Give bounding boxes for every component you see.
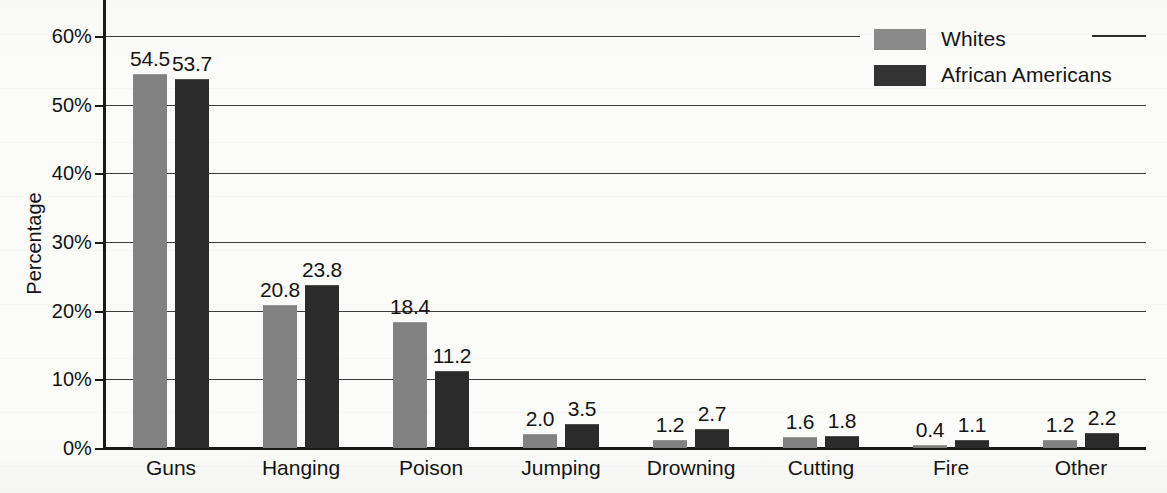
bar-value-label: 3.5 [568, 397, 597, 421]
y-axis-tick-label: 0% [6, 437, 92, 460]
gridline [103, 379, 1146, 380]
x-axis-category-label: Jumping [521, 456, 600, 480]
bar [1043, 440, 1077, 448]
gridline [103, 242, 1146, 243]
bar-value-label: 1.2 [656, 413, 685, 437]
bar [695, 429, 729, 448]
bar [1085, 433, 1119, 448]
bar-value-label: 2.7 [698, 402, 727, 426]
y-axis-tick-label: 40% [6, 162, 92, 185]
y-axis-line [103, 0, 106, 450]
x-axis-category-label: Other [1055, 456, 1108, 480]
bar-value-label: 0.4 [916, 418, 945, 442]
x-axis-category-label: Fire [933, 456, 969, 480]
y-axis-tick-label: 20% [6, 299, 92, 322]
bar-value-label: 11.2 [433, 344, 472, 368]
legend-swatch [874, 29, 926, 50]
bar-value-label: 2.0 [526, 407, 555, 431]
x-axis-category-label: Hanging [262, 456, 340, 480]
legend-item: African Americans [874, 60, 1112, 90]
bar [653, 440, 687, 448]
bar [435, 371, 469, 448]
gridline [103, 173, 1146, 174]
x-axis-line [103, 447, 1146, 450]
bar-value-label: 54.5 [130, 47, 170, 71]
gridline [103, 105, 1146, 106]
bar [263, 305, 297, 448]
x-axis-category-label: Guns [146, 456, 196, 480]
bar [783, 437, 817, 448]
bar-value-label: 1.8 [828, 409, 857, 433]
bar [955, 440, 989, 448]
chart-legend: WhitesAfrican Americans [874, 24, 1112, 96]
bar [825, 436, 859, 448]
bar-value-label: 1.1 [958, 413, 987, 437]
bar-value-label: 18.4 [390, 295, 430, 319]
bar-value-label: 1.2 [1046, 413, 1075, 437]
bar [393, 322, 427, 448]
bar-value-label: 23.8 [302, 258, 342, 282]
bar-value-label: 53.7 [172, 52, 212, 76]
bar [175, 79, 209, 448]
y-axis-tick-label: 10% [6, 368, 92, 391]
bar [523, 434, 557, 448]
legend-label: African Americans [941, 63, 1112, 87]
bar [565, 424, 599, 448]
y-axis-tick-label: 30% [6, 231, 92, 254]
gridline [103, 311, 1146, 312]
plot-area: 0%10%20%30%40%50%60% Percentage 54.553.7… [0, 0, 1167, 493]
y-axis-tick-label: 60% [6, 25, 92, 48]
x-axis-category-label: Cutting [788, 456, 855, 480]
bar-value-label: 2.2 [1088, 406, 1117, 430]
bar [913, 445, 947, 448]
bar-value-label: 20.8 [260, 278, 300, 302]
y-axis-tick-label: 50% [6, 93, 92, 116]
chart-page: 0%10%20%30%40%50%60% Percentage 54.553.7… [0, 0, 1167, 493]
legend-label: Whites [941, 27, 1006, 51]
gridline [103, 36, 860, 37]
bar-value-label: 1.6 [786, 410, 815, 434]
legend-item: Whites [874, 24, 1112, 54]
x-axis-category-label: Drowning [647, 456, 736, 480]
x-axis-category-label: Poison [399, 456, 463, 480]
bar [133, 74, 167, 448]
bar [305, 285, 339, 448]
y-axis-title: Percentage [23, 164, 46, 324]
legend-swatch [874, 65, 926, 86]
